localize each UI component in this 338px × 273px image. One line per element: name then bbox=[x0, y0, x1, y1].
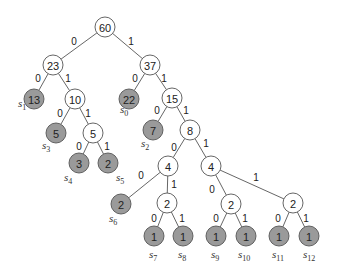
internal-node: 10 bbox=[65, 89, 85, 109]
symbol-label: s11 bbox=[272, 248, 284, 263]
node-weight: 2 bbox=[118, 199, 124, 211]
internal-node: 8 bbox=[180, 120, 200, 140]
edge-bit-label: 0 bbox=[275, 213, 281, 224]
edge-bit-label: 0 bbox=[76, 141, 82, 152]
edge-bit-label: 0 bbox=[154, 105, 160, 116]
node-weight: 4 bbox=[208, 161, 214, 173]
symbol-label: s8 bbox=[178, 248, 186, 263]
symbol-label: s2 bbox=[141, 137, 149, 152]
edge-bit-label: 1 bbox=[179, 213, 185, 224]
edge-bit-label: 1 bbox=[161, 73, 167, 84]
tree-edge bbox=[83, 142, 89, 154]
node-weight: 60 bbox=[99, 22, 111, 34]
node-weight: 2 bbox=[228, 199, 234, 211]
internal-node: 37 bbox=[140, 55, 160, 75]
node-weight: 5 bbox=[53, 128, 59, 140]
edge-bit-label: 1 bbox=[85, 108, 91, 119]
leaf-node: 2 bbox=[111, 194, 131, 214]
node-weight: 2 bbox=[105, 158, 111, 170]
edge-bit-label: 1 bbox=[171, 179, 177, 190]
symbol-label: s7 bbox=[149, 248, 157, 263]
internal-node: 2 bbox=[221, 194, 241, 214]
edge-bit-label: 0 bbox=[71, 36, 77, 47]
internal-node: 4 bbox=[201, 156, 221, 176]
node-weight: 22 bbox=[123, 94, 135, 106]
node-weight: 3 bbox=[76, 158, 82, 170]
node-weight: 37 bbox=[144, 60, 156, 72]
tree-edge bbox=[129, 172, 160, 197]
edge-bit-label: 0 bbox=[57, 108, 63, 119]
node-weight: 13 bbox=[28, 94, 40, 106]
tree-edge bbox=[235, 213, 242, 227]
leaf-node: 13 bbox=[24, 89, 44, 109]
internal-node: 15 bbox=[162, 88, 182, 108]
internal-node: 2 bbox=[283, 193, 303, 213]
node-weight: 1 bbox=[243, 231, 249, 243]
internal-node: 2 bbox=[157, 193, 177, 213]
node-weight: 8 bbox=[187, 125, 193, 137]
internal-node: 4 bbox=[158, 156, 178, 176]
edge-bit-label: 0 bbox=[171, 142, 177, 153]
node-weight: 15 bbox=[166, 93, 178, 105]
edge-bit-label: 0 bbox=[213, 213, 219, 224]
leaf-node: 1 bbox=[173, 226, 193, 246]
symbol-label: s6 bbox=[109, 212, 117, 227]
tree-edge bbox=[171, 212, 178, 227]
node-weight: 2 bbox=[290, 198, 296, 210]
node-weight: 5 bbox=[90, 128, 96, 140]
leaf-node: 1 bbox=[206, 226, 226, 246]
node-weight: 1 bbox=[180, 231, 186, 243]
edge-bit-label: 0 bbox=[151, 213, 157, 224]
edge-bit-label: 0 bbox=[35, 73, 41, 84]
edge-bit-label: 0 bbox=[132, 73, 138, 84]
node-weight: 4 bbox=[165, 161, 171, 173]
leaf-node: 1 bbox=[236, 226, 256, 246]
tree-edge bbox=[158, 212, 164, 226]
tree-edge bbox=[220, 213, 227, 227]
leaf-node: 1 bbox=[144, 226, 164, 246]
node-weight: 1 bbox=[276, 231, 282, 243]
edge-bit-label: 1 bbox=[303, 213, 309, 224]
leaf-node: 2 bbox=[98, 153, 118, 173]
symbol-label: s4 bbox=[64, 171, 72, 186]
edge-bit-label: 1 bbox=[104, 141, 110, 152]
edge-bit-label: 1 bbox=[65, 73, 71, 84]
internal-node: 60 bbox=[95, 17, 115, 37]
leaf-node: 1 bbox=[299, 226, 319, 246]
edge-bit-label: 1 bbox=[253, 172, 259, 183]
internal-node: 23 bbox=[43, 55, 63, 75]
tree-edge bbox=[283, 212, 289, 227]
symbol-label: s12 bbox=[303, 248, 315, 263]
edge-bit-label: 1 bbox=[242, 213, 248, 224]
symbol-label: s5 bbox=[116, 171, 124, 186]
node-weight: 1 bbox=[306, 231, 312, 243]
symbol-label: s10 bbox=[238, 248, 250, 263]
node-weight: 1 bbox=[151, 231, 157, 243]
node-weight: 2 bbox=[164, 198, 170, 210]
edge-bit-label: 1 bbox=[203, 138, 209, 149]
internal-node: 5 bbox=[83, 123, 103, 143]
huffman-tree-diagram: 010101010101010101010101 602337131022155… bbox=[0, 0, 338, 273]
node-weight: 7 bbox=[150, 125, 156, 137]
node-weight: 23 bbox=[47, 60, 59, 72]
leaf-node: 1 bbox=[269, 226, 289, 246]
edge-bit-label: 1 bbox=[183, 105, 189, 116]
edge-bit-label: 0 bbox=[209, 184, 215, 195]
leaf-node: 7 bbox=[143, 120, 163, 140]
symbol-label: s3 bbox=[42, 139, 50, 154]
leaf-node: 3 bbox=[69, 153, 89, 173]
tree-edge bbox=[216, 175, 227, 195]
leaf-node: 5 bbox=[46, 123, 66, 143]
symbol-label: s9 bbox=[211, 248, 219, 263]
node-weight: 1 bbox=[213, 231, 219, 243]
node-weight: 10 bbox=[69, 94, 81, 106]
tree-edge bbox=[61, 33, 97, 59]
tree-edge bbox=[97, 142, 103, 154]
edge-bit-label: 1 bbox=[128, 36, 134, 47]
edge-bit-label: 0 bbox=[138, 170, 144, 181]
